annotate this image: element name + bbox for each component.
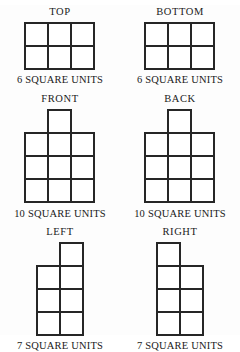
unit-square [71, 180, 94, 203]
unit-square [37, 266, 60, 289]
unit-square [71, 134, 94, 157]
unit-square [60, 289, 83, 312]
unit-square [37, 289, 60, 312]
unit-square [191, 134, 214, 157]
area-label-top: 6 SQUARE UNITS [17, 73, 103, 86]
unit-square [37, 312, 60, 335]
unit-square [71, 46, 94, 69]
shape-svg-back [143, 108, 216, 204]
unit-square [71, 157, 94, 180]
views-row-front-back: FRONT 10 SQUARE UNITS BACK 10 SQUARE UNI… [0, 92, 240, 219]
view-left: LEFT 7 SQUARE UNITS [1, 225, 119, 352]
unit-square [157, 289, 180, 312]
unit-square [48, 180, 71, 203]
unit-square [48, 157, 71, 180]
view-bottom: BOTTOM 6 SQUARE UNITS [121, 5, 239, 86]
unit-square [48, 46, 71, 69]
unit-square [25, 180, 48, 203]
unit-square [48, 23, 71, 46]
unit-square [157, 266, 180, 289]
view-title-back: BACK [164, 92, 196, 105]
view-back: BACK 10 SQUARE UNITS [121, 92, 239, 219]
unit-square [157, 243, 180, 266]
shape-grid-left [35, 241, 85, 337]
unit-square [145, 134, 168, 157]
area-label-back: 10 SQUARE UNITS [134, 207, 226, 220]
area-label-front: 10 SQUARE UNITS [14, 207, 106, 220]
shape-grid-bottom [143, 21, 216, 71]
unit-square [168, 111, 191, 134]
unit-square [25, 46, 48, 69]
shape-svg-top [23, 21, 96, 71]
shape-svg-right [155, 241, 205, 337]
unit-square [71, 23, 94, 46]
unit-square [180, 266, 203, 289]
view-title-left: LEFT [46, 225, 73, 238]
shape-svg-left [35, 241, 85, 337]
unit-square [180, 289, 203, 312]
view-top: TOP 6 SQUARE UNITS [1, 5, 119, 86]
unit-square [180, 312, 203, 335]
area-label-right: 7 SQUARE UNITS [137, 339, 223, 352]
unit-square [168, 46, 191, 69]
unit-square [168, 180, 191, 203]
unit-square [25, 157, 48, 180]
unit-square [168, 157, 191, 180]
unit-square [168, 23, 191, 46]
shape-grid-top [23, 21, 96, 71]
view-front: FRONT 10 SQUARE UNITS [1, 92, 119, 219]
unit-square [60, 266, 83, 289]
unit-square [25, 134, 48, 157]
unit-square [25, 23, 48, 46]
unit-square [145, 23, 168, 46]
unit-square [60, 312, 83, 335]
unit-square [60, 243, 83, 266]
unit-square [48, 111, 71, 134]
view-title-top: TOP [49, 5, 70, 18]
unit-square [191, 157, 214, 180]
area-label-bottom: 6 SQUARE UNITS [137, 73, 223, 86]
unit-square [48, 134, 71, 157]
shape-grid-right [155, 241, 205, 337]
shape-grid-back [143, 108, 216, 204]
shape-svg-front [23, 108, 96, 204]
shape-grid-front [23, 108, 96, 204]
view-title-bottom: BOTTOM [156, 5, 204, 18]
unit-square [191, 23, 214, 46]
shape-svg-bottom [143, 21, 216, 71]
unit-square [168, 134, 191, 157]
views-row-left-right: LEFT 7 SQUARE UNITS RIGHT 7 SQUARE UNITS [0, 225, 240, 352]
unit-square [145, 46, 168, 69]
unit-square [145, 157, 168, 180]
unit-square [191, 180, 214, 203]
area-label-left: 7 SQUARE UNITS [17, 339, 103, 352]
orthographic-views-figure: TOP 6 SQUARE UNITS BOTTOM 6 SQUARE UNITS… [0, 5, 240, 335]
unit-square [145, 180, 168, 203]
view-right: RIGHT 7 SQUARE UNITS [121, 225, 239, 352]
view-title-front: FRONT [41, 92, 78, 105]
views-row-top-bottom: TOP 6 SQUARE UNITS BOTTOM 6 SQUARE UNITS [0, 5, 240, 86]
view-title-right: RIGHT [162, 225, 197, 238]
unit-square [191, 46, 214, 69]
unit-square [157, 312, 180, 335]
